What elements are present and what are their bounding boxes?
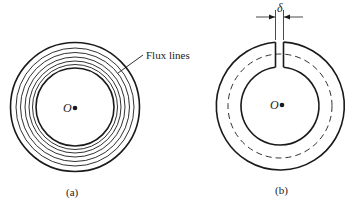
figure-canvas: O Flux lines (a) δ O (b) xyxy=(0,0,354,205)
flux-callout-leader xyxy=(118,55,143,73)
inner-boundary-b xyxy=(241,67,319,145)
caption-b: (b) xyxy=(275,184,288,197)
gap-label-delta: δ xyxy=(277,1,283,15)
caption-a: (a) xyxy=(66,186,79,199)
center-point-b xyxy=(280,103,285,108)
arrowhead-left-icon xyxy=(284,15,290,20)
center-label-a: O xyxy=(63,101,72,115)
flux-lines-label: Flux lines xyxy=(146,49,190,61)
center-label-b: O xyxy=(270,98,279,112)
center-point-a xyxy=(73,106,78,111)
arrowhead-right-icon xyxy=(269,15,275,20)
